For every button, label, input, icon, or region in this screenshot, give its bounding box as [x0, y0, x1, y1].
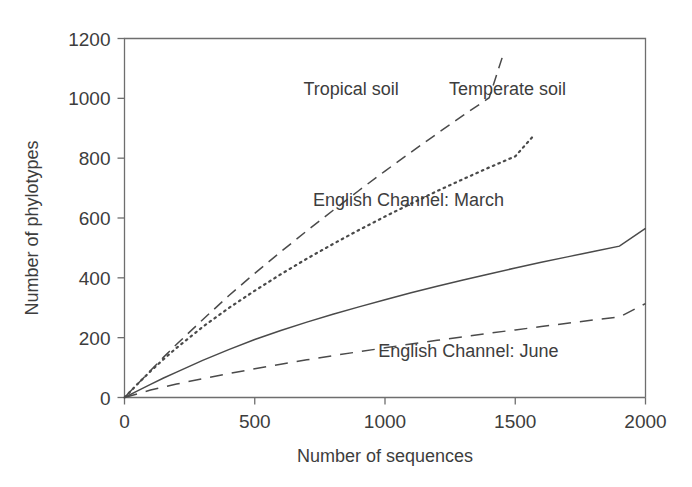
figure-container: 020040060080010001200 0500100015002000 T… [0, 0, 692, 487]
x-tick-label: 1000 [364, 411, 406, 432]
x-tick-label: 1500 [494, 411, 536, 432]
x-tick-label: 2000 [624, 411, 666, 432]
series-label: Temperate soil [449, 79, 566, 99]
series-label: English Channel: June [378, 341, 558, 361]
x-tick-label: 500 [239, 411, 271, 432]
y-tick-label: 400 [79, 268, 111, 289]
x-axis-title: Number of sequences [297, 446, 473, 466]
y-tick-label: 1200 [68, 29, 110, 50]
x-axis-ticks [125, 398, 646, 405]
y-tick-label: 200 [79, 328, 111, 349]
y-tick-label: 800 [79, 148, 111, 169]
y-axis-tick-labels: 020040060080010001200 [68, 29, 110, 409]
y-tick-label: 600 [79, 208, 111, 229]
y-tick-label: 0 [100, 388, 111, 409]
series-label: English Channel: March [313, 190, 504, 210]
rarefaction-line-chart: 020040060080010001200 0500100015002000 T… [0, 0, 692, 487]
y-axis-title: Number of phylotypes [22, 140, 42, 315]
y-tick-label: 1000 [68, 88, 110, 109]
x-axis-tick-labels: 0500100015002000 [119, 411, 666, 432]
series-curve [125, 228, 646, 397]
y-axis-ticks [118, 39, 125, 398]
series-annotations-group: Tropical soilTemperate soilEnglish Chann… [303, 79, 566, 361]
series-label: Tropical soil [303, 79, 398, 99]
x-tick-label: 0 [119, 411, 130, 432]
